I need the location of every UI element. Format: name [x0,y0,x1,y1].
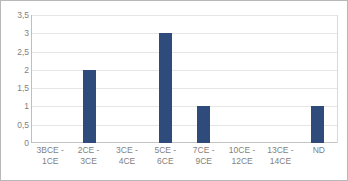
x-axis-tick-label: 7CE - 9CE [185,145,223,167]
bar-slot [32,15,70,143]
x-axis-tick-label: 10CE - 12CE [223,145,261,167]
y-axis-tick-label: 0,5 [3,120,29,129]
x-axis-tick-label: 2CE - 3CE [69,145,107,167]
bar[interactable] [159,33,172,143]
bar-slot [108,15,146,143]
bar-slot [185,15,223,143]
x-axis-tick-label: ND [300,145,338,167]
y-axis: 00,511,522,533,5 [3,15,29,143]
bar-slot [261,15,299,143]
x-axis-tick-label: 13CE - 14CE [261,145,299,167]
bar-series [32,15,337,143]
y-axis-tick-label: 1 [3,102,29,111]
bar-chart-figure: 00,511,522,533,5 3BCE - 1CE2CE - 3CE3CE … [0,0,348,181]
x-axis: 3BCE - 1CE2CE - 3CE3CE - 4CE5CE - 6CE7CE… [31,145,338,167]
bar-slot [299,15,337,143]
y-axis-tick-label: 3 [3,29,29,38]
y-axis-tick-label: 3,5 [3,11,29,20]
bar-slot [223,15,261,143]
x-axis-tick-label: 3CE - 4CE [108,145,146,167]
y-axis-tick-label: 0 [3,139,29,148]
bar-slot [70,15,108,143]
x-axis-tick-label: 5CE - 6CE [146,145,184,167]
y-axis-tick-label: 2,5 [3,47,29,56]
plot-area [31,15,338,143]
y-axis-tick-label: 1,5 [3,84,29,93]
bar[interactable] [311,106,324,143]
bar-slot [146,15,184,143]
bar[interactable] [197,106,210,143]
y-axis-tick-label: 2 [3,65,29,74]
bar[interactable] [83,70,96,143]
chart-plot-wrapper: 00,511,522,533,5 3BCE - 1CE2CE - 3CE3CE … [1,1,348,181]
x-axis-tick-label: 3BCE - 1CE [31,145,69,167]
